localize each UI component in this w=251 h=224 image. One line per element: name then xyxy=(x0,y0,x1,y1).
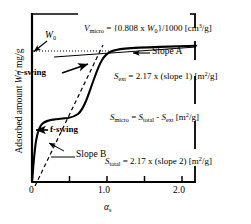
annotation-s-ext: Sext = 2.17 x (slope 1) [m2/g] xyxy=(114,72,217,81)
s-total-sup: 2 xyxy=(199,155,202,162)
annotation-s-total: Stotal = 2.17 x (slope 2) [m2/g] xyxy=(105,157,212,166)
y-axis-title-symbol: W xyxy=(14,75,24,83)
chart-canvas xyxy=(0,0,251,224)
s-total-subscript: total xyxy=(110,160,121,167)
v-micro-tail: }/1000 [cm xyxy=(158,23,199,33)
annotation-w0: W0 xyxy=(45,31,56,41)
s-micro-subscript3: ext xyxy=(166,116,174,123)
annotation-slope-b: Slope B xyxy=(76,150,106,160)
alpha-s-plot-figure: Vmicro = {0.808 x W0}/1000 [cm3/g] Sext … xyxy=(0,0,251,224)
x-axis-subscript: s xyxy=(109,206,111,213)
s-micro-subscript: micro xyxy=(115,116,129,123)
slope-b-leader xyxy=(49,143,75,157)
s-ext-symbol: S xyxy=(114,71,119,81)
s-total-unit-end: /g] xyxy=(202,156,212,166)
y-axis-title: Adsorbed amount W / mg/g xyxy=(14,26,24,176)
s-ext-subscript: ext xyxy=(119,75,127,82)
x-axis-title: αs xyxy=(104,203,111,213)
x-tick-label-0: 0 xyxy=(29,186,34,196)
v-micro-eq: = {0.808 x xyxy=(104,23,147,33)
w0-subscript: 0 xyxy=(53,34,56,41)
s-micro-unit-end: /g] xyxy=(189,112,199,122)
s-micro-eq2: - xyxy=(154,112,162,122)
x-tick-label-1: 1.0 xyxy=(98,186,110,196)
annotation-s-micro: Smicro = Stotal - Sext [m2/g] xyxy=(110,113,199,122)
v-micro-unit-end: /g] xyxy=(202,23,212,33)
s-ext-eq: = 2.17 x (slope 1) [m xyxy=(126,71,204,81)
s-micro-subscript2: total xyxy=(143,116,154,123)
c-swing-arrow xyxy=(62,64,88,73)
s-micro-unit: [m xyxy=(174,112,186,122)
w0-symbol: W xyxy=(45,30,53,40)
s-micro-sup: 2 xyxy=(186,111,189,118)
y-axis-title-unit: / mg/g xyxy=(14,48,24,73)
v-micro-sup: 3 xyxy=(199,22,202,29)
x-tick-label-2: 2.0 xyxy=(173,186,185,196)
v-micro-symbol: V xyxy=(84,23,90,33)
v-micro-subscript: micro xyxy=(90,27,104,34)
slope-b-arrow xyxy=(49,143,64,151)
v-micro-w-subscript: 0 xyxy=(155,27,158,34)
s-micro-eq1: = xyxy=(129,112,139,122)
annotation-v-micro: Vmicro = {0.808 x W0}/1000 [cm3/g] xyxy=(84,24,212,33)
s-ext-unit-end: /g] xyxy=(207,71,217,81)
s-micro-symbol: S xyxy=(110,112,115,122)
s-total-eq: = 2.17 x (slope 2) [m xyxy=(121,156,199,166)
annotation-slope-a: Slope A xyxy=(152,47,182,57)
y-axis-title-prefix: Adsorbed amount xyxy=(14,86,24,154)
annotation-f-swing: f-swing xyxy=(50,125,78,134)
w0-arrow xyxy=(34,41,47,52)
v-micro-w: W xyxy=(147,23,155,33)
